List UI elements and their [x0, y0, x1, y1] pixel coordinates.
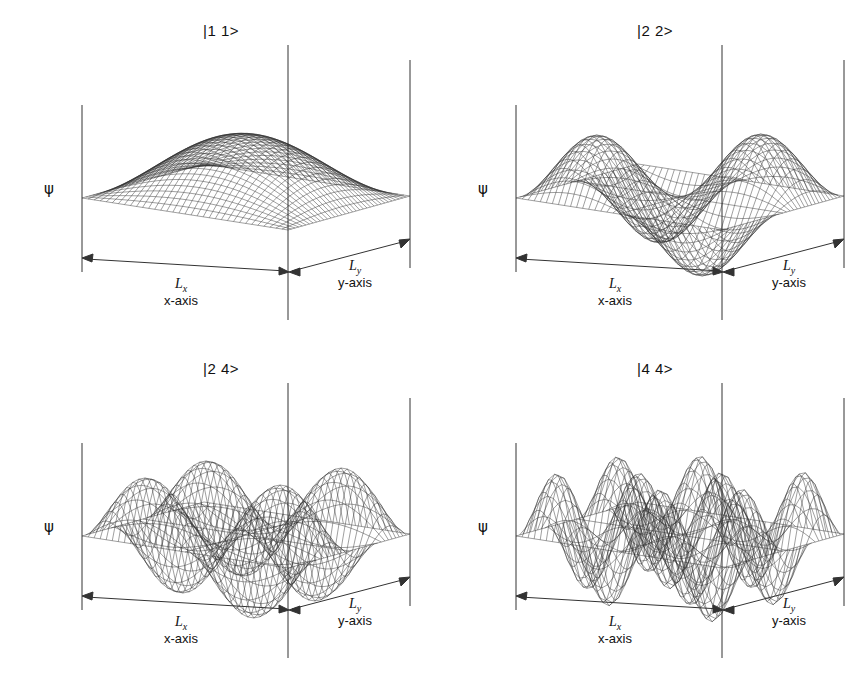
- x-arrowhead-left: [516, 592, 527, 600]
- wireframe-mesh-22: [516, 134, 844, 276]
- x-arrowhead-left: [516, 254, 527, 262]
- ly-symbol-11: Ly: [310, 258, 400, 276]
- y-arrowhead-left: [289, 268, 300, 276]
- x-dimension-arrow-line: [520, 259, 720, 271]
- y-dimension-label-11: Ly y-axis: [310, 258, 400, 291]
- y-arrowhead-left: [289, 606, 300, 614]
- ly-symbol-44: Ly: [744, 596, 834, 614]
- y-axis-text-44: y-axis: [744, 614, 834, 629]
- ket-label-44: |4 4>: [637, 360, 673, 377]
- psi-axis-label-44: ψ: [478, 518, 488, 536]
- x-arrowhead-left: [82, 592, 93, 600]
- x-dimension-label-11: Lx x-axis: [136, 276, 226, 309]
- ket-label-22: |2 2>: [637, 22, 673, 39]
- x-dimension-label-44: Lx x-axis: [570, 614, 660, 647]
- psi-axis-label-11: ψ: [44, 180, 54, 198]
- x-axis-text-44: x-axis: [570, 632, 660, 647]
- panel-state-24: |2 4> ψ Lx x-axis Ly y-axis: [0, 338, 433, 675]
- panel-state-22: |2 2> ψ Lx x-axis Ly y-axis: [434, 0, 867, 337]
- y-axis-text-24: y-axis: [310, 614, 400, 629]
- wireframe-mesh-11: [82, 133, 410, 230]
- x-dimension-arrow-line: [520, 597, 720, 609]
- y-arrowhead-right: [399, 239, 410, 248]
- y-dimension-label-22: Ly y-axis: [744, 258, 834, 291]
- y-dimension-label-44: Ly y-axis: [744, 596, 834, 629]
- y-dimension-label-24: Ly y-axis: [310, 596, 400, 629]
- lx-symbol-22: Lx: [570, 276, 660, 294]
- wavefunction-figure: |1 1> ψ Lx x-axis Ly y-axis: [0, 0, 867, 675]
- x-dimension-label-22: Lx x-axis: [570, 276, 660, 309]
- x-dimension-label-24: Lx x-axis: [136, 614, 226, 647]
- wireframe-mesh-24: [82, 461, 410, 618]
- y-arrowhead-right: [833, 577, 844, 586]
- y-arrowhead-left: [723, 268, 734, 276]
- panel-state-11: |1 1> ψ Lx x-axis Ly y-axis: [0, 0, 433, 337]
- x-arrowhead-left: [82, 254, 93, 262]
- x-dimension-arrow-line: [86, 259, 286, 271]
- x-axis-text-24: x-axis: [136, 632, 226, 647]
- lx-symbol-44: Lx: [570, 614, 660, 632]
- y-arrowhead-right: [833, 239, 844, 248]
- ket-label-24: |2 4>: [203, 360, 239, 377]
- x-axis-text-11: x-axis: [136, 294, 226, 309]
- ly-symbol-24: Ly: [310, 596, 400, 614]
- y-axis-text-22: y-axis: [744, 276, 834, 291]
- psi-axis-label-22: ψ: [478, 180, 488, 198]
- ly-symbol-22: Ly: [744, 258, 834, 276]
- ket-label-11: |1 1>: [203, 22, 239, 39]
- psi-axis-label-24: ψ: [44, 518, 54, 536]
- y-arrowhead-left: [723, 606, 734, 614]
- y-arrowhead-right: [399, 577, 410, 586]
- panel-state-44: |4 4> ψ Lx x-axis Ly y-axis: [434, 338, 867, 675]
- lx-symbol-11: Lx: [136, 276, 226, 294]
- x-axis-text-22: x-axis: [570, 294, 660, 309]
- y-axis-text-11: y-axis: [310, 276, 400, 291]
- lx-symbol-24: Lx: [136, 614, 226, 632]
